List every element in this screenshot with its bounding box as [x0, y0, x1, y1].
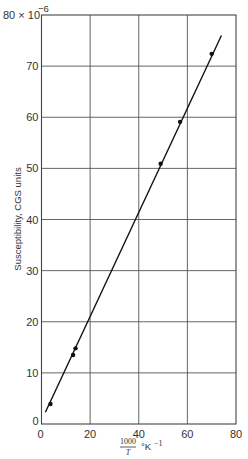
x-label-unit: °K — [141, 441, 152, 452]
data-point — [178, 120, 182, 124]
x-axis-ticks: 020406080 — [37, 428, 242, 440]
y-tick-label: 0 — [32, 415, 38, 427]
x-tick-label: 0 — [37, 428, 43, 440]
susceptibility-chart: 010203040506070 020406080 80 × 10 −6 Sus… — [0, 0, 248, 459]
y-tick-label: 30 — [26, 265, 38, 277]
x-tick-label: 60 — [181, 428, 193, 440]
data-point — [73, 346, 77, 350]
y-axis-label: Susceptibility, CGS units — [12, 167, 23, 271]
data-point — [71, 353, 75, 357]
x-axis-label: 1000 T °K −1 — [120, 437, 163, 457]
x-label-denominator: T — [126, 448, 131, 457]
x-label-numerator: 1000 — [120, 437, 136, 446]
x-tick-label: 20 — [84, 428, 96, 440]
data-series — [45, 35, 221, 412]
data-point — [48, 402, 52, 406]
y-axis-top-label: 80 × 10 — [3, 9, 40, 21]
y-axis-ticks: 010203040506070 — [26, 60, 38, 427]
data-point — [158, 162, 162, 166]
y-axis-top-exponent: −6 — [38, 3, 49, 14]
y-tick-label: 10 — [26, 367, 38, 379]
x-label-exponent: −1 — [154, 439, 163, 448]
grid-lines — [42, 15, 237, 424]
y-tick-label: 40 — [26, 214, 38, 226]
y-tick-label: 70 — [26, 60, 38, 72]
y-tick-label: 60 — [26, 111, 38, 123]
y-tick-label: 50 — [26, 162, 38, 174]
x-tick-label: 80 — [230, 428, 242, 440]
y-tick-label: 20 — [26, 316, 38, 328]
data-point — [209, 52, 213, 56]
